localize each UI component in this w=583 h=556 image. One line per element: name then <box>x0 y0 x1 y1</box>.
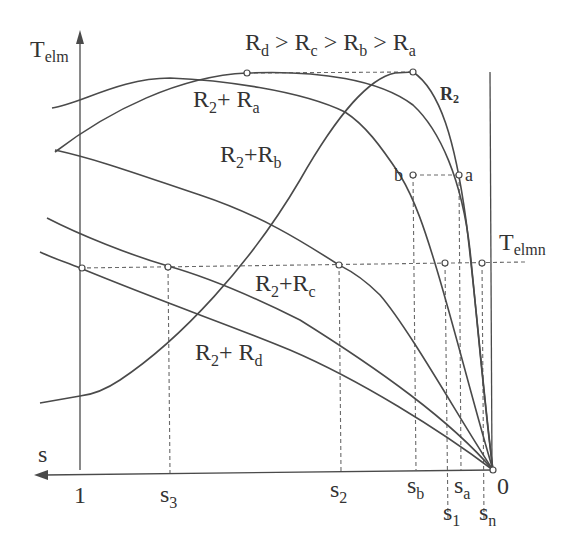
curve-label-r2-rc: R2+Rc <box>255 270 316 300</box>
curve-label-r2: R2 <box>440 84 459 106</box>
telmn-dashed-line <box>80 262 525 268</box>
curve-r2-rb <box>52 78 493 470</box>
s2-dashed-line <box>339 264 341 471</box>
sa-dashed-line <box>459 175 461 470</box>
curve-r2-rc <box>55 150 493 470</box>
tick-label-s2: s2 <box>330 476 347 506</box>
sb-dashed-line <box>413 175 416 470</box>
resistance-relation-label: Rd > Rc > Rb > Ra <box>245 29 416 59</box>
curve-r2-rc-lower <box>47 218 493 470</box>
x-axis-label: s <box>38 441 47 467</box>
torque-slip-diagram: Telm Rd > Rc > Rb > Ra R2 R2+ Ra R2+Rb R… <box>0 0 583 556</box>
x-axis <box>44 470 493 475</box>
tick-label-s1: s1 <box>443 499 460 529</box>
point-s2-telmn <box>336 262 342 268</box>
point-b-label: b <box>394 165 403 185</box>
telmn-label: Telmn <box>499 229 546 258</box>
point-a <box>456 172 462 178</box>
point-s1-telmn-r <box>442 260 448 266</box>
point-s1-telmn <box>79 265 85 271</box>
curve-label-r2-rd: R2+ Rd <box>195 339 263 369</box>
origin-point <box>490 467 496 473</box>
point-a-label: a <box>465 165 473 185</box>
curve-label-r2-rb: R2+Rb <box>220 141 282 171</box>
y-axis-arrow-icon <box>76 30 84 44</box>
tick-label-sb: sb <box>407 472 424 502</box>
origin-label: 0 <box>497 473 509 499</box>
curve-label-r2-ra: R2+ Ra <box>193 86 260 116</box>
tick-label-sa: sa <box>454 472 470 502</box>
y-axis-label: Telm <box>30 36 69 65</box>
point-s3-telmn <box>165 264 171 270</box>
curve-r2-ra <box>55 72 493 470</box>
s3-dashed-line <box>168 267 170 473</box>
max-point-r2 <box>410 69 416 75</box>
x-axis-arrow-icon <box>34 470 48 480</box>
max-point-ra <box>244 70 250 76</box>
tick-label-1: 1 <box>74 482 86 508</box>
point-sn-telmn <box>479 260 485 266</box>
tick-label-sn: sn <box>479 499 496 529</box>
zero-slip-vertical-line <box>490 72 492 470</box>
tick-label-s3: s3 <box>160 481 177 511</box>
point-b <box>410 172 416 178</box>
